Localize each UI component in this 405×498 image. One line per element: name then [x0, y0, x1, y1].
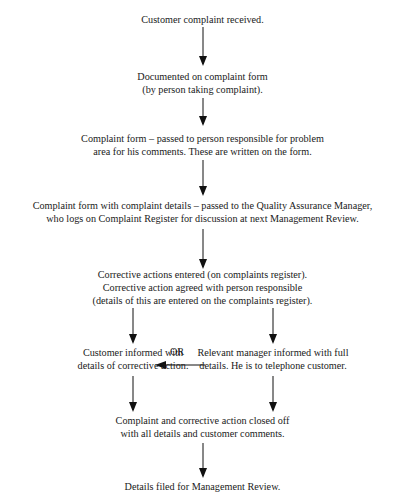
step-qa-manager: Complaint form with complaint details – …	[0, 199, 405, 225]
step-closed-off: Complaint and corrective action closed o…	[0, 414, 405, 440]
or-label: OR	[170, 346, 184, 357]
step-corrective-actions: Corrective actions entered (on complaint…	[0, 268, 405, 307]
step-customer-informed: Customer informed with details of correc…	[53, 346, 213, 372]
step-passed-to-responsible: Complaint form – passed to person respon…	[0, 132, 405, 158]
step-documented: Documented on complaint form (by person …	[0, 70, 405, 96]
step-manager-informed: Relevant manager informed with full deta…	[193, 346, 353, 372]
step-complaint-received: Customer complaint received.	[0, 13, 405, 26]
step-filed: Details filed for Management Review.	[0, 480, 405, 493]
